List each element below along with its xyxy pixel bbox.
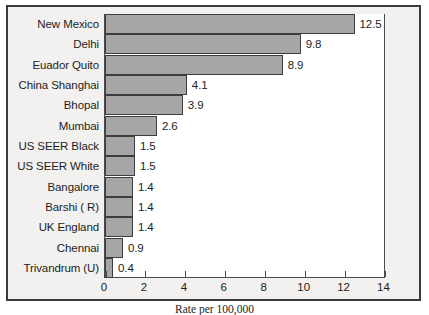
bar-row: 8.9: [105, 55, 386, 75]
category-axis-labels: New MexicoDelhiEuador QuitoChina Shangha…: [0, 14, 99, 278]
bar-row: 4.1: [105, 75, 386, 95]
bar-row: 9.8: [105, 34, 386, 54]
bar: [105, 136, 135, 156]
x-axis-tick: [305, 271, 307, 277]
category-label: US SEER White: [17, 156, 99, 176]
bar-value-label: 0.4: [118, 262, 134, 274]
bar: [105, 14, 355, 34]
bars-layer: 12.59.88.94.13.92.61.51.51.41.41.40.90.4: [105, 14, 384, 277]
bar-value-label: 1.4: [138, 221, 154, 233]
bar: [105, 116, 157, 136]
x-axis-tick-label: 8: [261, 281, 267, 293]
category-label: Chennai: [57, 238, 99, 258]
bar-value-label: 4.1: [192, 79, 208, 91]
category-label: US SEER Black: [18, 136, 99, 156]
x-axis-tick: [385, 271, 387, 277]
x-axis-tick-label: 0: [101, 281, 107, 293]
bar: [105, 75, 187, 95]
plot-area: 12.59.88.94.13.92.61.51.51.41.41.40.90.4: [104, 14, 385, 278]
x-axis-tick: [105, 271, 107, 277]
category-label: Euador Quito: [32, 55, 99, 75]
bar-value-label: 0.9: [128, 242, 144, 254]
bar-value-label: 1.4: [138, 181, 154, 193]
category-label: Barshi ( R): [45, 197, 99, 217]
bar-row: 1.4: [105, 177, 386, 197]
bar-row: 1.4: [105, 197, 386, 217]
x-axis-tick: [225, 271, 227, 277]
category-label: Bhopal: [64, 95, 99, 115]
bar: [105, 177, 133, 197]
bar-row: 1.4: [105, 217, 386, 237]
x-axis-tick-label: 2: [141, 281, 147, 293]
bar-row: 3.9: [105, 95, 386, 115]
bar-row: 2.6: [105, 116, 386, 136]
bar-value-label: 9.8: [306, 38, 322, 50]
bar: [105, 55, 283, 75]
bar-value-label: 1.5: [140, 140, 156, 152]
x-axis-tick-label: 6: [221, 281, 227, 293]
bar-value-label: 3.9: [188, 99, 204, 111]
bar: [105, 95, 183, 115]
x-axis-tick-label: 4: [181, 281, 187, 293]
bar-row: 1.5: [105, 156, 386, 176]
category-label: Trivandrum (U): [24, 258, 99, 278]
value-axis-tick-labels: 02468101214: [104, 281, 385, 297]
x-axis-tick: [345, 271, 347, 277]
bar-row: 0.9: [105, 238, 386, 258]
bar: [105, 34, 301, 54]
bar-value-label: 12.5: [360, 18, 382, 30]
category-label: China Shanghai: [19, 75, 99, 95]
bar: [105, 238, 123, 258]
x-axis-tick-label: 14: [377, 281, 390, 293]
category-label: Delhi: [73, 34, 99, 54]
bar-row: 1.5: [105, 136, 386, 156]
bar-value-label: 1.5: [140, 160, 156, 172]
bar: [105, 197, 133, 217]
x-axis-tick-label: 12: [337, 281, 350, 293]
x-axis-caption: Rate per 100,000: [0, 303, 429, 315]
bar: [105, 156, 135, 176]
bar-value-label: 8.9: [288, 59, 304, 71]
bar: [105, 217, 133, 237]
category-label: New Mexico: [37, 14, 99, 34]
bar-value-label: 2.6: [162, 120, 178, 132]
chart-figure: New MexicoDelhiEuador QuitoChina Shangha…: [0, 0, 429, 315]
category-label: Mumbai: [59, 116, 99, 136]
x-axis-tick: [185, 271, 187, 277]
x-axis-tick: [145, 271, 147, 277]
category-label: Bangalore: [47, 177, 99, 197]
x-axis-tick: [265, 271, 267, 277]
bar-row: 12.5: [105, 14, 386, 34]
category-label: UK England: [39, 217, 99, 237]
x-axis-tick-label: 10: [297, 281, 310, 293]
bar-value-label: 1.4: [138, 201, 154, 213]
